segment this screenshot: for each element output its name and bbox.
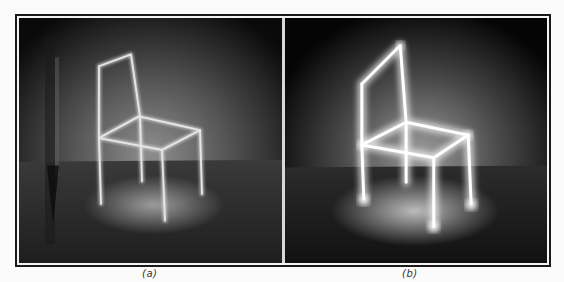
photo-panel-a bbox=[19, 18, 282, 263]
figure: (a) (b) bbox=[0, 0, 564, 282]
chair-photo-b bbox=[285, 18, 547, 263]
photo-panel-b bbox=[285, 18, 547, 263]
chair-photo-a bbox=[19, 18, 282, 263]
caption-panel-a: (a) bbox=[142, 268, 157, 279]
caption-panel-b: (b) bbox=[402, 268, 418, 279]
figure-photo-area bbox=[19, 18, 547, 263]
figure-frame bbox=[15, 14, 551, 267]
